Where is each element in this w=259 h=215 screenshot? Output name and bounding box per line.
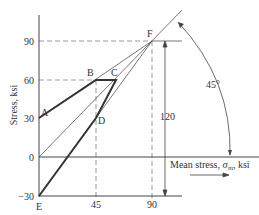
- y-tick-30: 30: [24, 113, 34, 124]
- xlabel-arrow: [190, 173, 229, 177]
- point-A-label: A: [41, 107, 49, 118]
- goodman-diagram: 90 60 30 0 −30 45 90 Stress, ksi Mean st…: [0, 0, 259, 215]
- x-axis-label: Mean stress, σm, ksi: [170, 159, 250, 172]
- point-C-label: C: [111, 67, 118, 78]
- safe-region: [39, 80, 116, 196]
- point-D-label: D: [98, 115, 105, 126]
- arc-arrow-bottom: [228, 150, 232, 156]
- angle-label: 45°: [206, 79, 220, 90]
- point-F-label: F: [147, 28, 153, 39]
- range-label: 120: [160, 111, 175, 122]
- point-B-label: B: [87, 67, 94, 78]
- point-E-label: E: [36, 201, 42, 212]
- y-tick-neg30: −30: [18, 191, 34, 202]
- y-tick-90: 90: [24, 36, 34, 47]
- y-axis-label: Stress, ksi: [8, 84, 19, 125]
- angle-arc: [178, 22, 230, 155]
- region-outline: [39, 80, 116, 196]
- y-tick-0: 0: [29, 152, 34, 163]
- line-45deg: [39, 10, 182, 157]
- x-tick-45: 45: [91, 199, 101, 210]
- x-tick-90: 90: [147, 199, 157, 210]
- y-tick-60: 60: [24, 75, 34, 86]
